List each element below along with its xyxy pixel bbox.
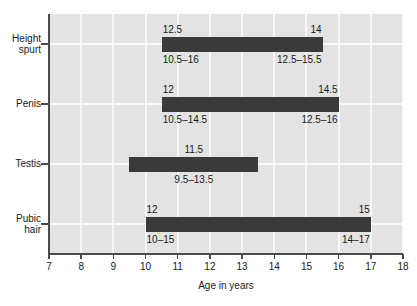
bar-height-spurt xyxy=(162,37,323,52)
bar-testis xyxy=(129,157,258,172)
bar-pubic-hair xyxy=(146,217,371,232)
x-tick-15 xyxy=(306,254,308,259)
y-tick-penis xyxy=(41,103,49,105)
x-tick-label-17: 17 xyxy=(359,261,383,273)
x-axis-title: Age in years xyxy=(49,280,403,291)
x-tick-16 xyxy=(338,254,340,259)
x-tick-label-11: 11 xyxy=(166,261,190,273)
x-axis-line xyxy=(49,253,403,255)
x-tick-18 xyxy=(402,254,404,259)
annotation-penis-below-left: 10.5–14.5 xyxy=(163,114,208,125)
gridline-x-18 xyxy=(402,14,403,254)
annotation-testis-below-center: 9.5–13.5 xyxy=(174,174,213,185)
x-tick-13 xyxy=(241,254,243,259)
annotation-height-spurt-below-left: 10.5–16 xyxy=(163,54,199,65)
category-label-penis: Penis xyxy=(0,98,41,110)
x-tick-label-16: 16 xyxy=(327,261,351,273)
annotation-testis-above-center: 11.5 xyxy=(184,144,203,155)
annotation-penis-above-left: 12 xyxy=(163,84,174,95)
annotation-pubic-hair-below-right: 14–17 xyxy=(342,234,370,245)
y-tick-height-spurt xyxy=(41,43,49,45)
category-label-testis: Testis xyxy=(0,158,41,170)
x-tick-9 xyxy=(113,254,115,259)
category-label-line: Testis xyxy=(0,158,41,170)
annotation-pubic-hair-below-left: 10–15 xyxy=(147,234,175,245)
x-tick-label-18: 18 xyxy=(391,261,415,273)
x-tick-12 xyxy=(209,254,211,259)
gridline-x-9 xyxy=(112,14,114,254)
y-tick-pubic-hair xyxy=(41,223,49,225)
annotation-penis-below-right: 12.5–16 xyxy=(301,114,337,125)
x-tick-17 xyxy=(370,254,372,259)
category-label-line: Penis xyxy=(0,98,41,110)
x-tick-14 xyxy=(274,254,276,259)
chart-container: 789101112131415161718 HeightspurtPenisTe… xyxy=(0,0,417,306)
y-axis-line xyxy=(48,14,50,254)
annotation-pubic-hair-above-left: 12 xyxy=(147,204,158,215)
plot-area xyxy=(49,14,403,254)
category-label-line: spurt xyxy=(0,44,41,56)
x-tick-10 xyxy=(145,254,147,259)
annotation-height-spurt-below-right: 12.5–15.5 xyxy=(277,54,322,65)
x-tick-11 xyxy=(177,254,179,259)
x-tick-label-14: 14 xyxy=(262,261,286,273)
bar-penis xyxy=(162,97,339,112)
y-tick-testis xyxy=(41,163,49,165)
category-label-line: Pubic xyxy=(0,213,41,225)
annotation-penis-above-right: 14.5 xyxy=(318,84,337,95)
x-tick-label-7: 7 xyxy=(37,261,61,273)
gridline-x-8 xyxy=(80,14,82,254)
x-tick-label-9: 9 xyxy=(101,261,125,273)
category-label-height-spurt: Heightspurt xyxy=(0,33,41,56)
x-tick-label-12: 12 xyxy=(198,261,222,273)
x-tick-label-8: 8 xyxy=(69,261,93,273)
category-label-line: hair xyxy=(0,224,41,236)
category-label-line: Height xyxy=(0,33,41,45)
annotation-height-spurt-above-right: 14 xyxy=(310,24,321,35)
x-tick-label-15: 15 xyxy=(294,261,318,273)
x-tick-8 xyxy=(80,254,82,259)
x-tick-label-10: 10 xyxy=(134,261,158,273)
annotation-pubic-hair-above-right: 15 xyxy=(359,204,370,215)
x-tick-7 xyxy=(48,254,50,259)
annotation-height-spurt-above-left: 12.5 xyxy=(163,24,182,35)
x-tick-label-13: 13 xyxy=(230,261,254,273)
category-label-pubic-hair: Pubichair xyxy=(0,213,41,236)
